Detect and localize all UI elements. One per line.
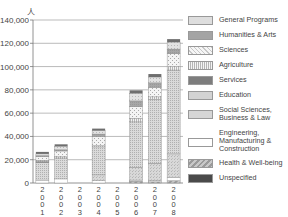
- bar-segment: [148, 99, 161, 163]
- legend-item: Services: [188, 76, 288, 85]
- bar-2007: [148, 74, 161, 183]
- legend-item: General Programs: [188, 16, 288, 25]
- legend-item: Social Sciences, Business & Law: [188, 106, 288, 123]
- bar-segment: [130, 181, 143, 183]
- bar-segment: [55, 146, 68, 149]
- bar-segment: [36, 163, 49, 180]
- legend: General ProgramsHumanities & ArtsScience…: [188, 16, 288, 183]
- x-axis: 20012002200320042005200620072008: [40, 185, 175, 217]
- bar-segment: [92, 136, 105, 145]
- legend-swatch-icon: [188, 61, 213, 70]
- legend-swatch-icon: [188, 16, 213, 25]
- bar-segment: [55, 158, 68, 179]
- x-tick-label: 8: [172, 208, 176, 217]
- bar-segment: [130, 118, 143, 121]
- bar-2008: [167, 39, 180, 183]
- y-tick-label: 20,000: [5, 156, 30, 165]
- bar-segment: [130, 107, 143, 119]
- bar-segment: [92, 175, 105, 181]
- bar-segment: [167, 49, 180, 54]
- bar-segment: [55, 179, 68, 183]
- bar-segment: [130, 101, 143, 107]
- legend-swatch-icon: [188, 31, 213, 40]
- bar-cap: [55, 144, 68, 146]
- bar-2006: [130, 90, 143, 183]
- legend-label: Engineering, Manufacturing & Constructio…: [219, 129, 288, 154]
- legend-item: Engineering, Manufacturing & Constructio…: [188, 129, 288, 154]
- bar-segment: [167, 177, 180, 180]
- y-axis-unit-label: 人: [27, 8, 35, 17]
- bar-segment: [167, 54, 180, 67]
- bar-segment: [148, 77, 161, 83]
- bar-segment: [130, 122, 143, 167]
- y-tick-label: 100,000: [0, 63, 29, 72]
- bar-cap: [148, 74, 161, 77]
- legend-label: Unspecified: [219, 174, 288, 182]
- legend-swatch-icon: [188, 174, 213, 183]
- legend-item: Agriculture: [188, 61, 288, 70]
- bar-segment: [36, 180, 49, 183]
- legend-swatch-icon: [188, 91, 213, 100]
- bar-segment: [148, 83, 161, 88]
- bar-segment: [148, 163, 161, 180]
- bar-cap: [130, 90, 143, 93]
- bar-segment: [167, 181, 180, 183]
- bar-cap: [36, 152, 49, 154]
- x-tick-label: 6: [134, 208, 138, 217]
- bar-segment: [36, 154, 49, 156]
- bar-2002: [55, 144, 68, 183]
- legend-item: Sciences: [188, 46, 288, 55]
- x-tick-label: 3: [78, 208, 82, 217]
- bar-2001: [36, 152, 49, 183]
- bar-segment: [148, 88, 161, 97]
- bar-segment: [148, 97, 161, 99]
- x-tick-label: 4: [97, 208, 101, 217]
- legend-swatch-icon: [188, 76, 213, 85]
- bar-segment: [130, 167, 143, 180]
- y-tick-label: 60,000: [5, 109, 30, 118]
- x-tick-label: 7: [153, 208, 157, 217]
- legend-label: Education: [219, 91, 288, 99]
- y-tick-label: 0: [25, 179, 30, 188]
- legend-label: Humanities & Arts: [219, 31, 288, 39]
- legend-label: Sciences: [219, 46, 288, 54]
- bar-segment: [92, 134, 105, 136]
- legend-label: Health & Well-being: [219, 159, 288, 167]
- bar-segment: [55, 151, 68, 157]
- x-tick-label: 5: [115, 208, 119, 217]
- legend-label: General Programs: [219, 16, 288, 24]
- bar-segment: [167, 42, 180, 49]
- x-tick-label: 1: [40, 208, 44, 217]
- legend-item: Humanities & Arts: [188, 31, 288, 40]
- y-tick-label: 40,000: [5, 132, 30, 141]
- bar-cap: [167, 39, 180, 42]
- legend-swatch-icon: [188, 110, 213, 119]
- y-tick-label: 120,000: [0, 39, 29, 48]
- legend-item: Unspecified: [188, 174, 288, 183]
- x-tick-label: 2: [59, 208, 63, 217]
- y-axis: 020,00040,00060,00080,000100,000120,0001…: [0, 16, 33, 188]
- legend-label: Agriculture: [219, 61, 288, 69]
- legend-label: Services: [219, 76, 288, 84]
- bar-segment: [130, 93, 143, 101]
- bar-segment: [92, 131, 105, 134]
- legend-swatch-icon: [188, 46, 213, 55]
- bar-segment: [92, 147, 105, 175]
- bar-segment: [167, 70, 180, 154]
- legend-swatch-icon: [188, 138, 213, 147]
- bar-segment: [167, 67, 180, 70]
- bar-cap: [92, 129, 105, 131]
- y-tick-label: 140,000: [0, 16, 29, 25]
- bar-segment: [36, 157, 49, 160]
- legend-item: Health & Well-being: [188, 159, 288, 168]
- y-tick-label: 80,000: [5, 86, 30, 95]
- bar-2004: [92, 129, 105, 183]
- legend-item: Education: [188, 91, 288, 100]
- legend-label: Social Sciences, Business & Law: [219, 106, 288, 123]
- bars: [36, 39, 180, 183]
- bar-segment: [167, 154, 180, 177]
- bar-segment: [92, 181, 105, 183]
- legend-swatch-icon: [188, 159, 213, 168]
